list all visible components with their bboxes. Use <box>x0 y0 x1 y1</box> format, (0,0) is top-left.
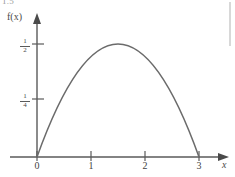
fraction-numerator: 1 <box>18 38 32 45</box>
density-curve <box>37 44 199 157</box>
y-tick-label-one-half: 1 2 <box>18 38 32 54</box>
x-tick-label-3: 3 <box>192 160 206 171</box>
x-tick-label-1: 1 <box>84 160 98 171</box>
x-tick-label-2: 2 <box>138 160 152 171</box>
plot-svg <box>0 0 235 177</box>
fraction-numerator: 1 <box>18 93 32 100</box>
figure-container: 1.5 f(x) x 1 2 1 4 0 1 2 3 <box>0 0 235 177</box>
figure-caption-fragment: 1.5 <box>2 0 28 4</box>
fraction-denominator: 2 <box>18 47 32 54</box>
fraction-denominator: 4 <box>18 102 32 109</box>
x-axis-label: x <box>222 159 226 170</box>
y-axis-label: f(x) <box>7 11 22 22</box>
scrollbar-artifact <box>229 2 231 46</box>
y-axis-arrowhead <box>33 13 41 24</box>
x-tick-label-0: 0 <box>30 160 44 171</box>
y-tick-label-one-quarter: 1 4 <box>18 93 32 109</box>
y-axis-label-text: f(x) <box>7 11 22 22</box>
